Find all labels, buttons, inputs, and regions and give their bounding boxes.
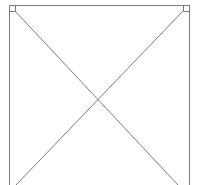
right-angle-marker-top-right	[184, 6, 190, 12]
diagonal-line-2	[16, 11, 183, 185]
diagram-canvas	[0, 0, 198, 185]
diagonal-line-1	[15, 11, 178, 185]
geometry-figure	[0, 0, 198, 185]
right-angle-marker-top-left	[10, 6, 16, 12]
